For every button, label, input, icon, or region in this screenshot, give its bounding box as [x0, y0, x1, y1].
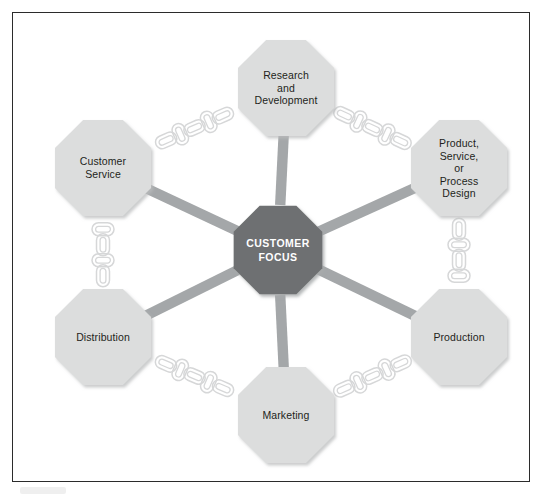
chain-rnd-to-product-design — [332, 104, 414, 151]
chain-link — [182, 118, 207, 139]
chain-link-outer — [376, 357, 397, 382]
node-product-service-or-process-design[interactable] — [411, 120, 507, 216]
chain-link-outer — [348, 370, 369, 395]
chain-link — [388, 130, 413, 151]
spoke-product-service-or-process-design — [317, 183, 419, 237]
chain-link — [360, 117, 385, 138]
chain-link-inner — [452, 242, 467, 248]
chain-link — [210, 378, 235, 399]
chain-distribution-to-customer-service — [92, 223, 114, 287]
chain-marketing-to-distribution — [153, 354, 235, 399]
chain-link-inner — [96, 257, 111, 263]
chain-link — [332, 104, 357, 125]
node-research-and-development[interactable] — [238, 40, 334, 136]
chain-link-outer — [170, 122, 191, 147]
chain-link-outer — [182, 118, 207, 139]
chain-link-inner — [100, 237, 106, 252]
chain-link — [97, 265, 110, 287]
page-artifact — [20, 487, 66, 494]
chain-link — [153, 354, 178, 375]
spoke-research-and-development — [275, 134, 289, 205]
chain-link — [360, 366, 385, 387]
chain-link-outer — [198, 109, 219, 134]
node-distribution[interactable] — [55, 289, 151, 385]
chain-link — [170, 122, 191, 147]
chain-link-outer — [348, 109, 369, 134]
chain-link — [198, 109, 219, 134]
chain-link-outer — [210, 378, 235, 399]
chain-link-outer — [360, 117, 385, 138]
chain-customer-service-to-rnd — [153, 105, 235, 151]
node-marketing[interactable] — [238, 367, 334, 463]
chain-link-inner — [452, 273, 467, 279]
chain-link-outer — [198, 369, 219, 394]
chain-link-outer — [376, 122, 397, 147]
chain-link — [182, 366, 207, 387]
chain-link — [97, 234, 110, 256]
chain-link — [198, 369, 219, 394]
chain-link — [453, 249, 466, 271]
chain-link — [153, 130, 178, 151]
chain-link-outer — [360, 366, 385, 387]
chain-link-outer — [210, 105, 235, 126]
spoke-distribution — [143, 265, 240, 320]
spoke-customer-service — [143, 183, 239, 235]
chain-link-outer — [170, 357, 191, 382]
chain-link-outer — [332, 104, 357, 125]
spoke-production — [316, 265, 419, 322]
chain-link — [332, 378, 357, 399]
chain-link — [210, 105, 235, 126]
chain-link — [170, 357, 191, 382]
node-customer-service[interactable] — [55, 120, 151, 216]
node-center-customer-focus[interactable] — [234, 206, 323, 295]
chain-link — [376, 357, 397, 382]
chain-link-outer — [388, 130, 413, 151]
chain-link-outer — [153, 354, 178, 375]
chain-link — [376, 122, 397, 147]
chain-product-design-to-production — [448, 218, 470, 282]
chain-link-inner — [96, 226, 111, 232]
chain-link-inner — [456, 222, 462, 237]
chain-link — [348, 109, 369, 134]
chain-link-outer — [182, 366, 207, 387]
node-production[interactable] — [411, 289, 507, 385]
chain-link — [453, 218, 466, 240]
chain-link-inner — [456, 253, 462, 268]
chain-link-outer — [388, 353, 413, 374]
chain-link-inner — [100, 268, 106, 283]
spoke-marketing — [275, 295, 289, 369]
chain-link — [348, 370, 369, 395]
chain-link-outer — [332, 378, 357, 399]
diagram-root: Research and DevelopmentProduct, Service… — [0, 0, 545, 497]
nodes-layer — [55, 40, 507, 463]
chain-link — [388, 353, 413, 374]
diagram-canvas — [0, 0, 545, 497]
chain-production-to-marketing — [332, 353, 414, 399]
chain-link-outer — [153, 130, 178, 151]
